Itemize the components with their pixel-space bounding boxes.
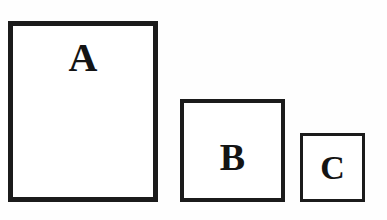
square-b-label: B xyxy=(180,138,285,176)
square-a-label: A xyxy=(8,38,158,78)
square-c-label: C xyxy=(300,151,365,185)
shape-comparison-figure: A B C xyxy=(0,0,387,220)
